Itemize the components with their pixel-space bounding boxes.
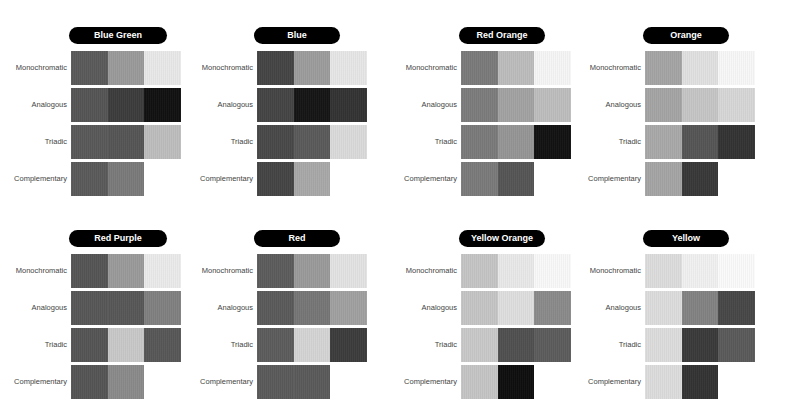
row-label-triadic: Triadic	[45, 125, 67, 159]
color-swatch	[108, 291, 145, 325]
color-swatch	[71, 125, 108, 159]
color-swatch	[682, 365, 719, 399]
color-swatch	[294, 162, 331, 196]
color-swatch	[257, 254, 294, 288]
color-swatch	[645, 125, 682, 159]
color-swatch	[534, 254, 571, 288]
swatch-row-analogous	[257, 291, 367, 325]
swatch-row-complementary	[461, 365, 534, 399]
swatch-row-triadic	[71, 125, 181, 159]
swatch-row-triadic	[71, 328, 181, 362]
swatch-row-complementary	[71, 162, 144, 196]
panel-title-yellow: Yellow	[643, 230, 729, 247]
color-swatch	[534, 291, 571, 325]
color-swatch	[257, 365, 294, 399]
color-swatch	[718, 88, 755, 122]
color-swatch	[257, 125, 294, 159]
swatch-row-monochromatic	[71, 51, 181, 85]
panel-title-blue-green: Blue Green	[69, 27, 167, 44]
panel-title-blue: Blue	[254, 27, 340, 44]
color-swatch	[71, 51, 108, 85]
color-swatch	[498, 162, 535, 196]
color-swatch	[257, 88, 294, 122]
color-swatch	[682, 254, 719, 288]
swatch-row-triadic	[645, 125, 755, 159]
color-swatch	[71, 254, 108, 288]
row-label-monochromatic: Monochromatic	[406, 254, 457, 288]
row-label-analogous: Analogous	[218, 88, 253, 122]
color-swatch	[108, 254, 145, 288]
color-swatch	[718, 125, 755, 159]
row-label-triadic: Triadic	[619, 125, 641, 159]
color-swatch	[108, 88, 145, 122]
row-label-monochromatic: Monochromatic	[590, 51, 641, 85]
color-swatch	[71, 328, 108, 362]
row-label-complementary: Complementary	[14, 365, 67, 399]
color-swatch	[294, 365, 331, 399]
color-swatch	[257, 291, 294, 325]
color-swatch	[257, 162, 294, 196]
swatch-row-monochromatic	[257, 254, 367, 288]
color-swatch	[645, 162, 682, 196]
color-swatch	[461, 88, 498, 122]
swatch-row-analogous	[461, 88, 571, 122]
swatch-row-complementary	[645, 162, 718, 196]
color-swatch	[330, 125, 367, 159]
color-swatch	[645, 365, 682, 399]
color-swatch	[144, 328, 181, 362]
swatch-row-complementary	[461, 162, 534, 196]
row-label-monochromatic: Monochromatic	[16, 254, 67, 288]
color-swatch	[498, 254, 535, 288]
color-swatch	[144, 125, 181, 159]
color-swatch	[461, 365, 498, 399]
color-swatch	[144, 88, 181, 122]
row-label-triadic: Triadic	[231, 328, 253, 362]
swatch-row-analogous	[71, 88, 181, 122]
row-label-triadic: Triadic	[435, 125, 457, 159]
color-swatch	[108, 162, 145, 196]
color-swatch	[330, 254, 367, 288]
color-swatch	[144, 291, 181, 325]
color-swatch	[498, 125, 535, 159]
color-swatch	[294, 291, 331, 325]
color-swatch	[718, 291, 755, 325]
color-swatch	[534, 125, 571, 159]
color-swatch	[257, 51, 294, 85]
swatch-row-triadic	[461, 328, 571, 362]
row-label-complementary: Complementary	[588, 365, 641, 399]
color-swatch	[294, 51, 331, 85]
color-swatch	[461, 51, 498, 85]
panel-title-orange: Orange	[643, 27, 729, 44]
color-swatch	[71, 88, 108, 122]
color-swatch	[645, 51, 682, 85]
color-swatch	[645, 88, 682, 122]
color-swatch	[257, 328, 294, 362]
swatch-row-analogous	[71, 291, 181, 325]
color-swatch	[682, 291, 719, 325]
color-swatch	[71, 162, 108, 196]
row-label-complementary: Complementary	[200, 365, 253, 399]
color-swatch	[144, 51, 181, 85]
color-swatch	[108, 51, 145, 85]
row-label-monochromatic: Monochromatic	[16, 51, 67, 85]
panel-title-yellow-orange: Yellow Orange	[459, 230, 545, 247]
swatch-row-monochromatic	[645, 254, 755, 288]
color-swatch	[682, 88, 719, 122]
color-swatch	[108, 365, 145, 399]
row-label-monochromatic: Monochromatic	[590, 254, 641, 288]
row-label-triadic: Triadic	[231, 125, 253, 159]
color-swatch	[645, 291, 682, 325]
color-swatch	[718, 254, 755, 288]
panel-title-red-purple: Red Purple	[69, 230, 167, 247]
row-label-analogous: Analogous	[606, 88, 641, 122]
row-label-triadic: Triadic	[619, 328, 641, 362]
row-label-monochromatic: Monochromatic	[406, 51, 457, 85]
swatch-row-analogous	[645, 291, 755, 325]
color-swatch	[534, 328, 571, 362]
swatch-row-complementary	[257, 162, 330, 196]
color-swatch	[108, 125, 145, 159]
color-swatch	[718, 51, 755, 85]
color-swatch	[498, 328, 535, 362]
color-swatch	[294, 88, 331, 122]
swatch-row-analogous	[645, 88, 755, 122]
